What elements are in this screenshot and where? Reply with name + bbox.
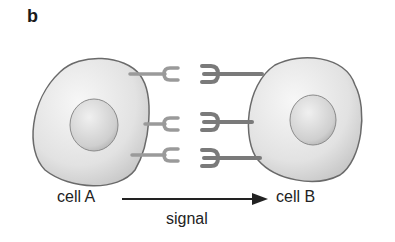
cell-b: [248, 58, 361, 182]
cell-b-label: cell B: [276, 188, 315, 206]
cell-a: [33, 58, 149, 185]
signal-label: signal: [166, 210, 208, 228]
nucleus-b: [290, 95, 336, 145]
signal-arrow: [122, 193, 268, 205]
cell-a-label: cell A: [57, 188, 95, 206]
nucleus-a: [70, 99, 118, 151]
